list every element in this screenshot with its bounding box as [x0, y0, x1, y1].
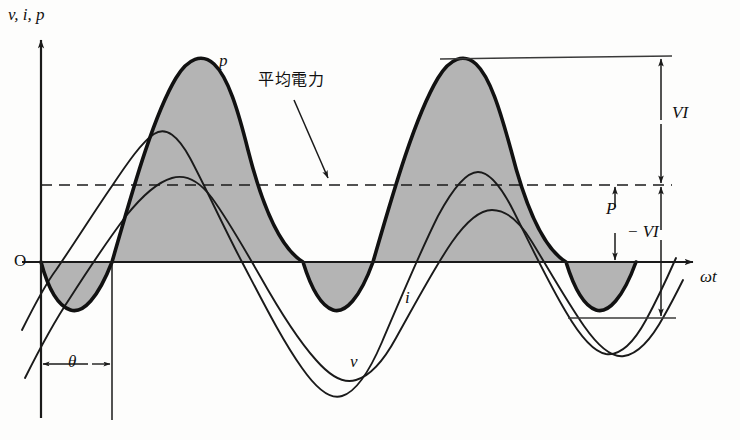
- phase-angle-theta-label: θ: [68, 353, 76, 370]
- amplitude-VI-label: VI: [672, 104, 688, 121]
- curve-label-i: i: [405, 289, 410, 306]
- waveform-canvas: [0, 0, 740, 440]
- peak-reference-line: [440, 56, 672, 59]
- amplitude-negative-VI-label: − VI: [627, 223, 659, 240]
- curve-label-p: p: [219, 52, 228, 69]
- figure-root: v, i, p ωt O p i v VI − VI P θ 平均電力: [0, 0, 740, 440]
- average-power-callout-arrow: [294, 100, 328, 178]
- origin-label: O: [14, 252, 26, 269]
- y-axis-label: v, i, p: [8, 6, 45, 23]
- x-axis-label: ωt: [700, 268, 717, 285]
- curve-label-v: v: [350, 353, 358, 370]
- average-power-callout-label: 平均電力: [258, 72, 324, 88]
- average-power-P-label: P: [606, 200, 616, 217]
